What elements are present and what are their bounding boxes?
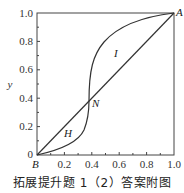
y-axis-label: y	[7, 78, 13, 90]
diagonal-line	[37, 13, 174, 155]
point-label-b: B	[32, 158, 39, 170]
x-tick-label: 0.8	[140, 158, 154, 170]
x-tick-label: 0.2	[58, 158, 72, 170]
figure-caption: 拓展提升题 1（2）答案附图	[0, 173, 184, 190]
y-tick-label: 0.2	[19, 120, 33, 132]
y-tick-label: 0.6	[19, 63, 33, 75]
region-label-i: I	[113, 47, 119, 59]
x-tick-label: 1.0	[167, 158, 181, 170]
x-tick-label: 0.4	[85, 158, 99, 170]
region-label-h: H	[63, 127, 73, 139]
x-tick-label: 0.6	[112, 158, 126, 170]
y-tick-label: 0.4	[19, 92, 33, 104]
point-label-a: A	[175, 6, 183, 18]
y-tick-label: 0.8	[19, 35, 33, 47]
point-label-n: N	[91, 97, 100, 109]
y-tick-label: 1.0	[19, 7, 33, 19]
chart-canvas: 1.0 0.8 0.6 0.4 0.2 0 0.2 0.4 0.6 0.8 1.…	[0, 0, 184, 193]
